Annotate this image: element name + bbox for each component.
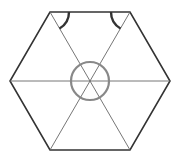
angle-mark-top-right bbox=[111, 12, 121, 29]
hexagon-diagram bbox=[0, 0, 185, 162]
angle-mark-top-left bbox=[60, 12, 70, 29]
